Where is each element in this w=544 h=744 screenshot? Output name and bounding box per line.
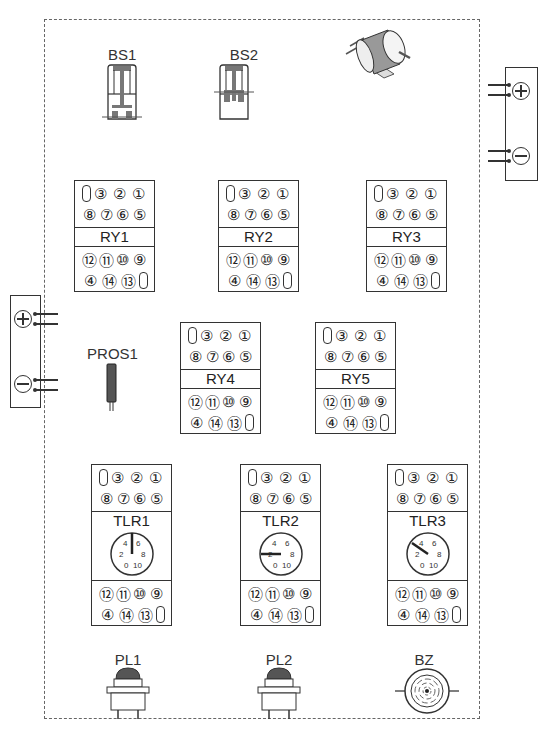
svg-text:4: 4 — [419, 539, 424, 548]
pilot-lamp-pl2-icon[interactable] — [257, 667, 301, 721]
timer-tlr3[interactable]: ③②①⑧⑦⑥⑤ TLR3 2468010 ⑫⑪⑩⑨④⑭⑬ — [387, 464, 468, 626]
svg-text:6: 6 — [432, 539, 437, 548]
timer-dial-icon[interactable]: 2468010 — [107, 530, 157, 578]
relay-label: RY3 — [367, 227, 446, 247]
relay-label: RY5 — [316, 369, 395, 389]
timer-tlr1[interactable]: ③②①⑧⑦⑥⑤ TLR1 2468010 ⑫⑪⑩⑨④⑭⑬ — [91, 464, 172, 626]
svg-text:0: 0 — [124, 561, 129, 570]
timer-dial-icon[interactable]: 2468010 — [403, 530, 453, 578]
svg-text:8: 8 — [437, 550, 442, 559]
svg-text:10: 10 — [429, 561, 438, 570]
timer-label: TLR3 — [388, 512, 467, 530]
relay-ry4[interactable]: ③②①⑧⑦⑥⑤ RY4 ⑫⑪⑩⑨④⑭⑬ — [180, 322, 261, 434]
svg-text:10: 10 — [133, 561, 142, 570]
svg-text:6: 6 — [285, 539, 290, 548]
plus-terminal-icon[interactable] — [14, 310, 32, 328]
minus-terminal-icon[interactable] — [14, 375, 32, 393]
svg-text:0: 0 — [273, 561, 278, 570]
svg-text:0: 0 — [420, 561, 425, 570]
svg-text:8: 8 — [141, 550, 146, 559]
timer-tlr2[interactable]: ③②①⑧⑦⑥⑤ TLR2 2468010 ⑫⑪⑩⑨④⑭⑬ — [240, 464, 321, 626]
svg-text:10: 10 — [282, 561, 291, 570]
bs1-label: BS1 — [108, 46, 136, 63]
svg-text:6: 6 — [136, 539, 141, 548]
timer-label: TLR2 — [241, 512, 320, 530]
relay-label: RY2 — [219, 227, 298, 247]
relay-label: RY1 — [75, 227, 154, 247]
buzzer-icon[interactable] — [395, 667, 459, 717]
svg-text:2: 2 — [119, 550, 124, 559]
motor-icon[interactable] — [344, 26, 414, 88]
push-button-bs1-icon[interactable] — [100, 64, 144, 122]
minus-terminal-icon[interactable] — [512, 147, 530, 165]
svg-text:2: 2 — [415, 550, 420, 559]
svg-text:4: 4 — [272, 539, 277, 548]
relay-ry1[interactable]: ③②①⑧⑦⑥⑤ RY1 ⑫⑪⑩⑨④⑭⑬ — [74, 180, 155, 292]
timer-label: TLR1 — [92, 512, 171, 530]
pros1-label: PROS1 — [85, 345, 140, 362]
relay-label: RY4 — [181, 369, 260, 389]
relay-ry3[interactable]: ③②①⑧⑦⑥⑤ RY3 ⑫⑪⑩⑨④⑭⑬ — [366, 180, 447, 292]
pilot-lamp-pl1-icon[interactable] — [106, 667, 150, 721]
relay-ry5[interactable]: ③②①⑧⑦⑥⑤ RY5 ⑫⑪⑩⑨④⑭⑬ — [315, 322, 396, 434]
timer-dial-icon[interactable]: 2468010 — [256, 530, 306, 578]
proximity-sensor-icon[interactable] — [104, 363, 118, 413]
svg-text:4: 4 — [123, 539, 128, 548]
pl1-label: PL1 — [113, 651, 143, 668]
bz-label: BZ — [412, 651, 436, 668]
push-button-bs2-icon[interactable] — [212, 64, 256, 122]
bs2-label: BS2 — [229, 46, 259, 63]
pl2-label: PL2 — [264, 651, 294, 668]
svg-text:8: 8 — [290, 550, 295, 559]
relay-ry2[interactable]: ③②①⑧⑦⑥⑤ RY2 ⑫⑪⑩⑨④⑭⑬ — [218, 180, 299, 292]
plus-terminal-icon[interactable] — [512, 82, 530, 100]
